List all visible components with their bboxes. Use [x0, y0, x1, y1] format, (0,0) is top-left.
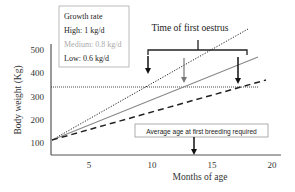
y-tick: 200	[31, 115, 45, 125]
breeding-label: Average age at first breeding required	[146, 128, 257, 136]
x-tick: 10	[148, 160, 158, 170]
arrow-medium-head	[181, 77, 187, 83]
y-tick: 300	[31, 92, 45, 102]
y-tick: 400	[31, 68, 45, 78]
breeding-arrow-head	[191, 149, 197, 155]
oestrus-bracket	[148, 40, 247, 55]
y-tick: 500	[31, 45, 45, 55]
legend-title: Growth rate	[64, 12, 103, 21]
x-tick: 5	[87, 160, 92, 170]
arrow-low-head	[235, 78, 241, 84]
x-tick: 15	[208, 160, 218, 170]
legend-low: Low: 0.6 kg/d	[64, 54, 109, 63]
y-tick: 100	[31, 138, 45, 148]
legend-high: High: 1 kg/d	[64, 26, 104, 35]
x-tick: 20	[268, 160, 278, 170]
chart: 500 400 300 200 100 Body weight (Kg) 5 1…	[0, 0, 295, 192]
y-axis-label: Body weight (Kg)	[13, 65, 24, 134]
x-axis-label: Months of age	[173, 172, 228, 182]
arrow-high-head	[145, 68, 151, 74]
oestrus-label: Time of first oestrus	[152, 23, 229, 33]
legend-medium: Medium: 0.8 kg/d	[64, 40, 122, 49]
chart-canvas: 500 400 300 200 100 Body weight (Kg) 5 1…	[0, 0, 295, 192]
